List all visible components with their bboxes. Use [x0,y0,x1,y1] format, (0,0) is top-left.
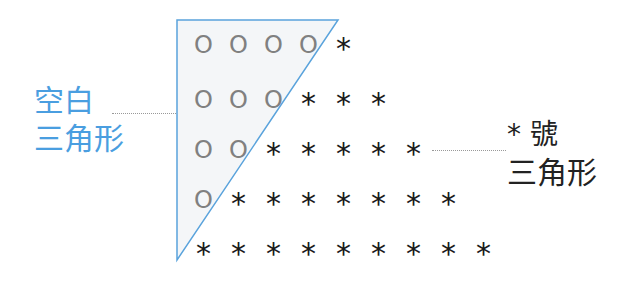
star-cell: * [361,178,396,222]
star-cell: * [256,128,291,172]
star-cell: * [291,128,326,172]
star-cell: * [291,178,326,222]
circle-cell: O [221,132,256,168]
circle-cell: O [221,27,256,63]
star-cell: * [256,178,291,222]
circle-cell: O [221,82,256,118]
star-triangle-label: * 號 三角形 [507,116,597,192]
star-cell: * [326,178,361,222]
blank-label-line1: 空白 [34,82,124,120]
star-cell: * [431,178,466,222]
star-cell: * [326,78,361,122]
circle-cell: O [186,182,221,218]
star-label-line1: * 號 [507,116,597,154]
circle-cell: O [186,27,221,63]
star-cell: * [361,228,396,272]
star-cell: * [326,128,361,172]
star-cell: * [256,228,291,272]
star-cell: * [466,228,501,272]
pattern-row-3: O O * * * * * [186,132,431,168]
circle-cell: O [256,82,291,118]
circle-cell: O [256,27,291,63]
star-cell: * [291,78,326,122]
star-cell: * [221,178,256,222]
star-cell: * [396,178,431,222]
star-cell: * [186,228,221,272]
pattern-row-4: O * * * * * * * [186,182,466,218]
pattern-row-2: O O O * * * [186,82,396,118]
star-cell: * [361,128,396,172]
pattern-row-5: * * * * * * * * * [186,232,501,268]
star-cell: * [361,78,396,122]
circle-cell: O [186,132,221,168]
star-cell: * [431,228,466,272]
blank-label-line2: 三角形 [34,120,124,158]
right-leader-line [432,150,506,151]
star-cell: * [326,23,361,67]
blank-triangle-label: 空白 三角形 [34,82,124,158]
star-cell: * [396,228,431,272]
star-cell: * [396,128,431,172]
circle-cell: O [291,27,326,63]
circle-cell: O [186,82,221,118]
star-label-line2: 三角形 [507,154,597,192]
star-cell: * [221,228,256,272]
star-cell: * [326,228,361,272]
star-cell: * [291,228,326,272]
pattern-row-1: O O O O * [186,27,361,63]
